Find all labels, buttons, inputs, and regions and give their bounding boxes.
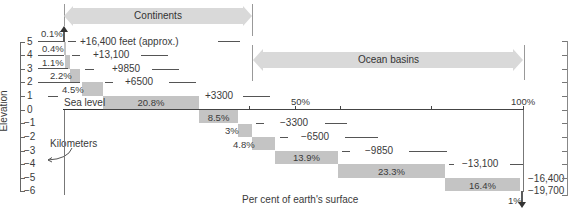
down-arrow-icon	[517, 191, 527, 208]
continents-label: Continents	[64, 8, 252, 24]
y-label-m3: −3	[24, 146, 35, 156]
pct-label-0.1: 0.1%	[41, 29, 63, 39]
axis-dash	[48, 96, 58, 97]
x-label-100: 100%	[511, 97, 535, 107]
pct-label-4.5: 4.5%	[62, 85, 84, 95]
elevation-axis-title: Elevation	[0, 90, 9, 131]
dash	[218, 41, 240, 42]
dash	[141, 55, 168, 56]
pct-label-1.1: 1.1%	[42, 58, 64, 68]
x-axis-title: Per cent of earth's surface	[242, 195, 358, 205]
pct-label-2.2: 2.2%	[50, 71, 72, 81]
ocean-right-bound	[524, 45, 525, 80]
y-tick	[20, 42, 25, 43]
feet-13100: +13,100	[93, 50, 129, 60]
pct-label-0.4: 0.4%	[42, 44, 64, 54]
right-tick	[562, 137, 567, 138]
y-tick	[20, 110, 25, 111]
zero-percent-line	[64, 110, 65, 195]
dash	[345, 137, 378, 138]
bar-3	[238, 124, 252, 137]
dash	[342, 151, 350, 152]
dash	[510, 164, 523, 165]
right-axis	[567, 41, 568, 196]
pct-label-23.3: 23.3%	[338, 167, 445, 177]
feet-minus-16400: −16,400	[528, 174, 564, 184]
right-tick	[562, 69, 567, 70]
right-tick	[562, 178, 567, 179]
feet-minus-9850: −9850	[365, 146, 393, 156]
right-tick	[562, 82, 567, 83]
dash	[152, 69, 179, 70]
dash	[85, 69, 94, 70]
y-label-4: 4	[27, 50, 33, 60]
pct-label-13.9: 13.9%	[275, 153, 338, 163]
underline	[38, 82, 80, 83]
y-label-2: 2	[27, 77, 33, 87]
right-tick	[562, 96, 567, 97]
right-tick	[562, 55, 567, 56]
y-label-m1: −1	[24, 118, 35, 128]
right-tick	[562, 151, 567, 152]
feet-minus-19700: −19,700	[528, 186, 564, 196]
y-label-1: 1	[27, 91, 33, 101]
dash	[409, 151, 447, 152]
pct-label-4.8: 4.8%	[233, 140, 255, 150]
bar-0.4	[64, 42, 66, 55]
pct-label-8.5: 8.5%	[199, 113, 238, 123]
right-tick	[562, 110, 567, 111]
kilometers-arrow-icon	[40, 145, 80, 165]
y-label-3: 3	[27, 64, 33, 74]
y-label-5: 5	[27, 37, 33, 47]
y-tick	[20, 82, 25, 83]
y-tick	[20, 55, 25, 56]
right-tick	[562, 195, 567, 196]
right-tick	[562, 164, 567, 165]
y-label-m6: −6	[24, 186, 35, 196]
dash	[243, 96, 270, 97]
sea-level-underline	[63, 109, 103, 110]
y-label-m4: −4	[24, 159, 35, 169]
x-tick-80	[431, 106, 432, 110]
feet-9850: +9850	[112, 64, 140, 74]
feet-minus-3300: −3300	[280, 118, 308, 128]
y-label-m5: −5	[24, 173, 35, 183]
right-tick	[562, 123, 567, 124]
y-label-m2: −2	[24, 132, 35, 142]
feet-16400: +16,400 feet (approx.)	[80, 37, 179, 47]
feet-minus-6500: −6500	[301, 132, 329, 142]
pct-label-16.4: 16.4%	[445, 181, 520, 191]
y-tick	[20, 96, 25, 97]
dash	[449, 164, 454, 165]
feet-6500: +6500	[125, 77, 153, 87]
x-label-50: 50%	[291, 97, 310, 107]
bar-1.1	[65, 55, 70, 69]
right-tick	[562, 41, 567, 42]
bar-4.5	[82, 82, 103, 96]
hundred-percent-line	[523, 110, 524, 192]
feet-3300: +3300	[205, 91, 233, 101]
sea-level-label: Sea level	[64, 98, 105, 108]
pct-label-3: 3%	[225, 126, 239, 136]
y-tick	[20, 69, 25, 70]
underline	[38, 55, 64, 56]
ocean-basins-label: Ocean basins	[253, 52, 524, 68]
dash	[72, 55, 80, 56]
percent-axis	[64, 109, 524, 110]
elevation-axis	[20, 42, 21, 192]
x-tick-60	[340, 106, 341, 110]
underline	[38, 41, 64, 42]
feet-minus-13100: −13,100	[462, 159, 498, 169]
dash	[325, 123, 347, 124]
y-label-0: 0	[27, 105, 33, 115]
dash	[256, 123, 264, 124]
pct-label-20.8: 20.8%	[103, 98, 199, 108]
dash	[280, 137, 288, 138]
bar-4.8	[252, 137, 275, 150]
underline	[38, 68, 68, 69]
dash	[105, 82, 113, 83]
dash	[68, 41, 76, 42]
x-tick-40	[249, 106, 250, 110]
dash	[169, 82, 196, 83]
